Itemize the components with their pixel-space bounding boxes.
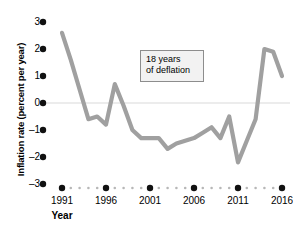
annotation-line-1: 18 years xyxy=(146,54,199,65)
x-minor-tick-dot xyxy=(70,187,73,190)
y-tick-label: 3 xyxy=(24,17,40,27)
x-minor-tick-dot xyxy=(96,187,99,190)
x-tick-label: 2001 xyxy=(139,196,161,206)
x-minor-tick-dot xyxy=(219,187,222,190)
y-tick-dot xyxy=(40,181,46,187)
x-major-tick-dot xyxy=(279,185,285,191)
y-tick-dot xyxy=(40,154,46,160)
x-minor-tick-dot xyxy=(254,187,257,190)
x-axis-tick-labels: 199119962001200620112016 xyxy=(0,196,293,212)
y-axis-tick-dots xyxy=(40,19,46,187)
inflation-rate-chart: Inflation rate (percent per year) 3210–1… xyxy=(0,0,293,237)
y-tick-label: 1 xyxy=(24,71,40,81)
x-minor-tick-dot xyxy=(263,187,266,190)
x-tick-label: 2006 xyxy=(183,196,205,206)
x-minor-tick-dot xyxy=(166,187,169,190)
x-major-tick-dot xyxy=(103,185,109,191)
x-minor-tick-dot xyxy=(158,187,161,190)
x-major-tick-dot xyxy=(235,185,241,191)
x-tick-label: 1991 xyxy=(51,196,73,206)
x-axis-minor-tick-dots xyxy=(70,187,275,190)
x-tick-label: 2016 xyxy=(271,196,293,206)
y-tick-label: –2 xyxy=(24,152,40,162)
x-minor-tick-dot xyxy=(246,187,249,190)
x-major-tick-dot xyxy=(147,185,153,191)
x-minor-tick-dot xyxy=(228,187,231,190)
y-tick-dot xyxy=(40,73,46,79)
annotation-line-2: of deflation xyxy=(146,65,199,76)
x-major-tick-dot xyxy=(59,185,65,191)
y-tick-label: 0 xyxy=(24,98,40,108)
x-tick-label: 2011 xyxy=(227,196,249,206)
x-minor-tick-dot xyxy=(272,187,275,190)
x-major-tick-dot xyxy=(191,185,197,191)
x-minor-tick-dot xyxy=(210,187,213,190)
x-axis-major-tick-dots xyxy=(59,185,285,191)
x-minor-tick-dot xyxy=(122,187,125,190)
x-minor-tick-dot xyxy=(140,187,143,190)
y-tick-dot xyxy=(40,19,46,25)
x-axis-title: Year xyxy=(51,210,72,221)
x-minor-tick-dot xyxy=(202,187,205,190)
x-minor-tick-dot xyxy=(175,187,178,190)
y-tick-label: 2 xyxy=(24,44,40,54)
deflation-annotation: 18 years of deflation xyxy=(140,50,204,82)
y-tick-dot xyxy=(40,100,46,106)
x-minor-tick-dot xyxy=(131,187,134,190)
y-tick-label: –3 xyxy=(24,179,40,189)
x-minor-tick-dot xyxy=(78,187,81,190)
x-minor-tick-dot xyxy=(87,187,90,190)
y-tick-dot xyxy=(40,127,46,133)
x-tick-label: 1996 xyxy=(95,196,117,206)
x-minor-tick-dot xyxy=(114,187,117,190)
y-tick-label: –1 xyxy=(24,125,40,135)
x-minor-tick-dot xyxy=(184,187,187,190)
y-tick-dot xyxy=(40,46,46,52)
